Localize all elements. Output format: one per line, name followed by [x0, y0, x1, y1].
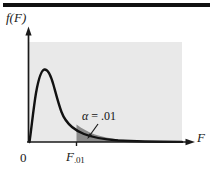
- y-axis-arrowhead: [25, 27, 31, 36]
- x-axis-label: F: [197, 131, 205, 144]
- alpha-value: .01: [101, 109, 116, 123]
- x-axis-arrowhead: [186, 139, 196, 146]
- alpha-symbol: α: [82, 109, 88, 123]
- critical-value-label: F.01: [66, 150, 85, 165]
- critical-value-subscript: .01: [74, 155, 85, 165]
- panel-background: [29, 42, 182, 142]
- equals-sign: =: [91, 109, 98, 123]
- y-axis-label: f(F): [6, 11, 26, 24]
- plot-canvas: [0, 0, 214, 174]
- alpha-annotation-label: α = .01: [82, 110, 116, 122]
- f-distribution-figure: f(F) F 0 F.01 α = .01: [0, 0, 214, 174]
- critical-value-symbol: F: [66, 149, 74, 164]
- origin-tick-label: 0: [20, 151, 27, 164]
